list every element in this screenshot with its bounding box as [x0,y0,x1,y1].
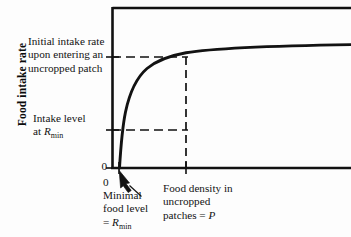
annotation-initial-intake-rate: Initial intake rateupon entering anuncro… [28,35,114,75]
annotation-density-symbol: P [208,209,215,221]
food-intake-rate-figure: Food intake rate Initial intake rateupon… [0,0,351,237]
annotation-intake-level-line2-prefix: at [33,125,44,137]
annotation-minimal-line1: Minimal [103,189,142,201]
annotation-minimal-symbol: R [112,216,119,228]
annotation-intake-level-subscript: min [51,132,63,141]
annotation-minimal-line2: food level [103,202,148,214]
x-axis-zero-label: 0 [103,176,117,189]
annotation-density-line3-prefix: patches = [163,209,208,221]
annotation-density-line2: uncropped [163,195,210,207]
annotation-density-line1: Food density in [163,182,233,194]
annotation-initial-intake-rate-text: Initial intake rateupon entering anuncro… [28,35,104,74]
y-axis-zero-label: 0 [93,160,107,173]
annotation-intake-level-line1: Intake level [33,112,86,124]
annotation-minimal-food-level: Minimalfood level= Rmin [103,189,165,233]
annotation-minimal-subscript: min [119,222,131,231]
annotation-minimal-line3-prefix: = [103,216,112,228]
annotation-food-density: Food density inuncroppedpatches = P [163,182,267,222]
annotation-intake-level-symbol: R [44,125,51,137]
intake-rate-curve [120,45,351,168]
annotation-intake-level: Intake levelat Rmin [33,112,111,143]
y-axis-title: Food intake rate [16,20,29,150]
